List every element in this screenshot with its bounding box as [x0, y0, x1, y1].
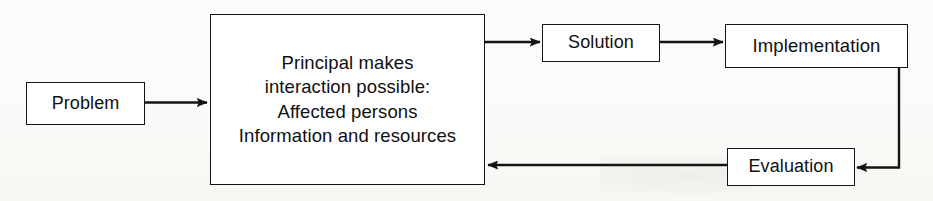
node-problem: Problem: [26, 82, 145, 125]
node-principal-label: Principal makes interaction possible: Af…: [239, 51, 456, 149]
node-problem-label: Problem: [52, 93, 120, 114]
node-implementation-label: Implementation: [753, 35, 881, 57]
edge-implementation-to-evaluation: [857, 68, 899, 168]
node-evaluation-label: Evaluation: [748, 156, 833, 177]
node-solution-label: Solution: [568, 32, 634, 53]
node-implementation: Implementation: [725, 24, 908, 68]
node-evaluation: Evaluation: [727, 148, 855, 186]
node-principal: Principal makes interaction possible: Af…: [210, 14, 485, 185]
node-solution: Solution: [542, 24, 660, 62]
diagram-canvas: Problem Principal makes interaction poss…: [0, 0, 933, 201]
